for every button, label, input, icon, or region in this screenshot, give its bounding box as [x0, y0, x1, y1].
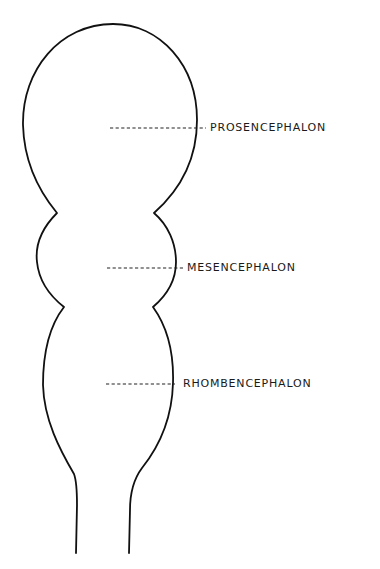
neural-tube-left-outline: [23, 24, 113, 553]
rhombencephalon-label: RHOMBENCEPHALON: [183, 378, 311, 390]
brain-vesicles-diagram: [0, 0, 380, 569]
mesencephalon-label: MESENCEPHALON: [187, 262, 296, 274]
neural-tube-right-outline: [113, 24, 197, 553]
prosencephalon-label: PROSENCEPHALON: [210, 122, 326, 134]
